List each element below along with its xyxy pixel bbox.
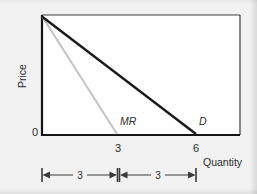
mr-curve-label: MR: [120, 115, 137, 127]
dimension-left-arrow-start: [43, 172, 51, 179]
y-axis-title: Price: [16, 64, 28, 88]
dimension-right-group: 3: [120, 168, 197, 182]
plot-area-background: [42, 15, 240, 135]
dimension-right-arrow-start: [120, 172, 128, 179]
economics-demand-mr-figure: Price 0 MR D 3 6 Quantity 3 3: [0, 0, 257, 194]
dimension-left-group: 3: [42, 168, 118, 182]
dimension-right-arrow-end: [188, 172, 196, 179]
chart-canvas: Price 0 MR D 3 6 Quantity 3 3: [0, 0, 257, 194]
x-axis-title: Quantity: [203, 156, 243, 168]
x-tick-label-3: 3: [115, 142, 121, 154]
x-tick-label-6: 6: [193, 142, 199, 154]
origin-label: 0: [32, 126, 38, 138]
dimension-right-label: 3: [155, 170, 161, 181]
dimension-left-arrow-end: [110, 172, 118, 179]
dimension-left-label: 3: [77, 170, 83, 181]
demand-curve-label: D: [199, 115, 207, 127]
